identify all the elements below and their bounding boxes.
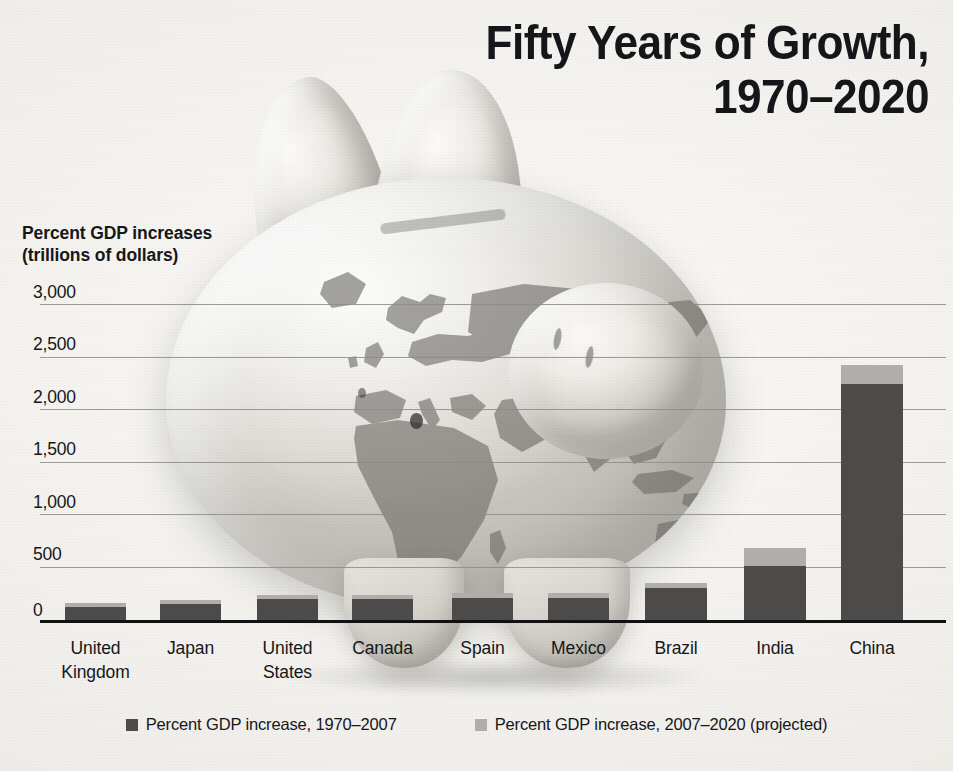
bar-united-kingdom bbox=[65, 603, 126, 620]
bar-canada bbox=[352, 595, 413, 620]
gridline-1000 bbox=[40, 514, 946, 515]
legend-item-historical: Percent GDP increase, 1970–2007 bbox=[126, 715, 397, 734]
gridline-2000 bbox=[40, 409, 946, 410]
y-tick-1000: 1,000 bbox=[33, 492, 76, 513]
legend-swatch-historical bbox=[126, 719, 138, 731]
legend-label-projected: Percent GDP increase, 2007–2020 (project… bbox=[495, 715, 828, 734]
bar-segment-historical-canada bbox=[352, 599, 413, 620]
x-label-china: China bbox=[812, 636, 932, 660]
y-tick-0: 0 bbox=[33, 600, 43, 621]
bar-mexico bbox=[548, 593, 609, 620]
bar-china bbox=[841, 365, 903, 620]
gridline-500 bbox=[40, 567, 946, 568]
bar-segment-historical-united-kingdom bbox=[65, 607, 126, 620]
bar-india bbox=[744, 548, 806, 620]
y-tick-500: 500 bbox=[33, 544, 62, 565]
gridline-3000 bbox=[40, 304, 946, 305]
y-axis-caption: Percent GDP increases (trillions of doll… bbox=[22, 222, 212, 267]
x-axis-line bbox=[40, 620, 946, 623]
poster: Fifty Years of Growth, 1970–2020 Percent… bbox=[0, 0, 953, 771]
bar-segment-historical-india bbox=[744, 566, 806, 620]
bar-chart: Percent GDP increases (trillions of doll… bbox=[0, 0, 953, 771]
legend-item-projected: Percent GDP increase, 2007–2020 (project… bbox=[475, 715, 828, 734]
bar-segment-historical-spain bbox=[452, 598, 513, 620]
bar-spain bbox=[452, 593, 513, 620]
y-tick-2500: 2,500 bbox=[33, 334, 76, 355]
y-tick-3000: 3,000 bbox=[33, 282, 76, 303]
bar-united-states bbox=[257, 595, 318, 620]
bar-japan bbox=[160, 600, 221, 620]
bar-segment-projected-india bbox=[744, 548, 806, 566]
legend-swatch-projected bbox=[475, 719, 487, 731]
gridline-1500 bbox=[40, 462, 946, 463]
bar-segment-historical-united-states bbox=[257, 599, 318, 620]
legend-label-historical: Percent GDP increase, 1970–2007 bbox=[146, 715, 397, 734]
bar-segment-historical-china bbox=[841, 384, 903, 620]
bar-brazil bbox=[645, 583, 707, 620]
chart-legend: Percent GDP increase, 1970–2007 Percent … bbox=[0, 715, 953, 734]
bar-segment-historical-mexico bbox=[548, 598, 609, 620]
bar-segment-projected-china bbox=[841, 365, 903, 384]
y-tick-2000: 2,000 bbox=[33, 387, 76, 408]
bar-segment-historical-brazil bbox=[645, 588, 707, 620]
y-tick-1500: 1,500 bbox=[33, 439, 76, 460]
gridline-2500 bbox=[40, 357, 946, 358]
bar-segment-historical-japan bbox=[160, 604, 221, 620]
